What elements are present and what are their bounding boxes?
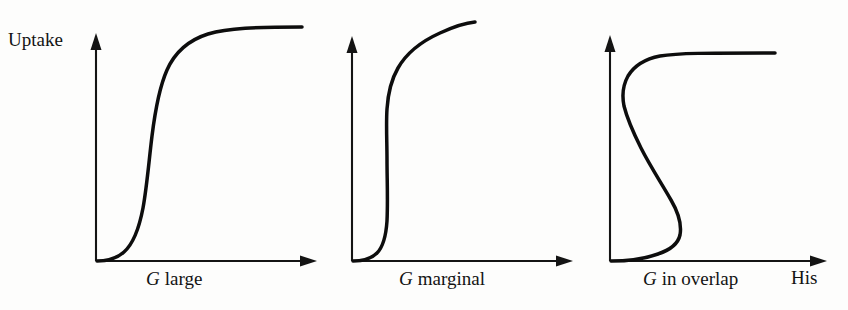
panel-2-x-axis-arrowhead <box>556 256 573 267</box>
panel-1-caption-text: large <box>165 268 203 289</box>
panel-2-y-axis-arrowhead <box>347 36 358 53</box>
panel-3-uptake-fold-curve <box>611 53 775 261</box>
panel-1-caption: Glarge <box>146 269 202 288</box>
panel-1-x-axis-arrowhead <box>300 256 317 267</box>
panel-3-x-axis-arrowhead <box>810 256 827 267</box>
panel-3-caption-symbol: G <box>643 268 662 289</box>
figure-root: Uptake His Glarge Gmarginal Gin overlap <box>0 0 848 310</box>
panel-3-caption-text: in overlap <box>662 268 739 289</box>
panel-g-large-graphics <box>91 27 318 267</box>
panel-1-y-axis-arrowhead <box>91 33 102 50</box>
y-axis-label-uptake: Uptake <box>8 30 63 49</box>
figure-canvas <box>0 0 848 310</box>
panel-2-uptake-curve <box>353 22 475 261</box>
panel-g-in-overlap-graphics <box>605 35 828 267</box>
panel-2-caption-text: marginal <box>418 268 485 289</box>
x-axis-label-his: His <box>791 268 817 287</box>
panel-1-uptake-curve <box>97 27 302 261</box>
panel-2-caption: Gmarginal <box>399 269 485 288</box>
panel-3-caption: Gin overlap <box>643 269 738 288</box>
panel-g-marginal-graphics <box>347 22 574 267</box>
panel-2-caption-symbol: G <box>399 268 418 289</box>
panel-1-caption-symbol: G <box>146 268 165 289</box>
panel-3-y-axis-arrowhead <box>605 35 616 52</box>
